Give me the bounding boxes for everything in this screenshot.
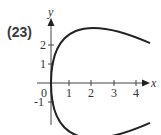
x-tick-label-1: 1 [66,86,72,100]
x-tick-label-4: 4 [133,86,139,100]
y-tick-label-2: 2 [40,38,46,52]
y-tick-label-neg1: -1 [34,95,44,109]
x-axis-label: x [150,76,157,90]
parabola-chart: x y 0 1 2 3 4 2 1 -1 [0,0,161,135]
parabola-curve [51,28,150,135]
y-axis-arrow-icon [48,18,55,26]
x-axis-arrow-icon [142,80,150,87]
y-axis-label: y [47,5,54,19]
x-tick-label-3: 3 [111,86,117,100]
y-tick-label-1: 1 [40,57,46,71]
x-tick-label-2: 2 [88,86,94,100]
